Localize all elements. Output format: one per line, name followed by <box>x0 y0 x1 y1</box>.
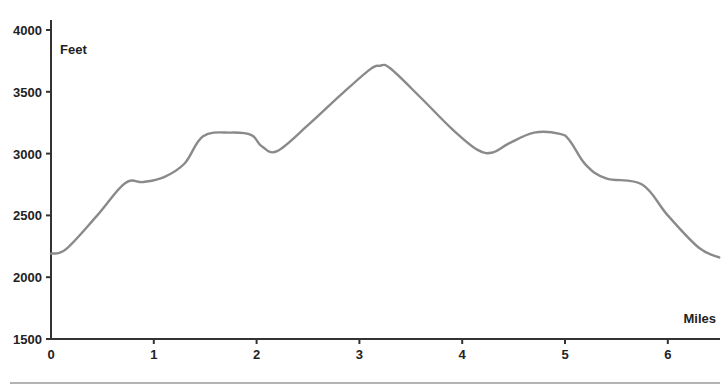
x-tick-label: 0 <box>47 347 54 362</box>
elevation-line <box>51 65 719 258</box>
y-tick-label: 3000 <box>13 147 42 162</box>
x-tick-label: 4 <box>459 347 467 362</box>
y-tick-label: 3500 <box>13 85 42 100</box>
y-tick-label: 2000 <box>13 270 42 285</box>
y-tick-label: 4000 <box>13 23 42 38</box>
x-tick-label: 6 <box>664 347 671 362</box>
y-axis-title: Feet <box>60 42 87 57</box>
elevation-chart: 150020002500300035004000 0123456 Feet Mi… <box>0 0 722 387</box>
y-tick-label: 2500 <box>13 208 42 223</box>
x-axis-title: Miles <box>683 311 716 326</box>
x-tick-label: 3 <box>356 347 363 362</box>
x-axis-ticks: 0123456 <box>47 339 671 362</box>
x-tick-label: 2 <box>253 347 260 362</box>
x-tick-label: 5 <box>561 347 568 362</box>
y-tick-label: 1500 <box>13 332 42 347</box>
y-axis-ticks: 150020002500300035004000 <box>13 23 51 347</box>
x-tick-label: 1 <box>150 347 157 362</box>
